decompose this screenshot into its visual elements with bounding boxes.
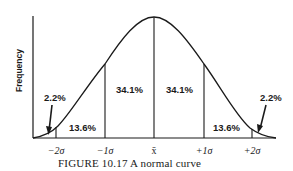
label-left-tail: 2.2% <box>44 92 66 103</box>
label-left-13: 13.6% <box>69 122 96 133</box>
tick-minus-2sigma: −2σ <box>48 145 66 156</box>
tick-minus-1sigma: −1σ <box>97 145 115 156</box>
label-right-13: 13.6% <box>213 122 240 133</box>
label-right-tail: 2.2% <box>260 92 282 103</box>
tick-plus-2sigma: +2σ <box>244 145 262 156</box>
arrow-right-icon <box>257 105 266 133</box>
arrow-left-icon <box>46 105 52 135</box>
normal-curve-figure: Frequency 2.2% 13.6% 34.1% 34.1% 13.6% 2… <box>0 0 293 171</box>
tick-plus-1sigma: +1σ <box>196 145 214 156</box>
label-right-34: 34.1% <box>166 84 193 95</box>
y-axis-label: Frequency <box>14 49 24 92</box>
tick-mean: x̄ <box>152 145 157 156</box>
label-left-34: 34.1% <box>116 84 143 95</box>
figure-caption: FIGURE 10.17 A normal curve <box>58 157 201 169</box>
